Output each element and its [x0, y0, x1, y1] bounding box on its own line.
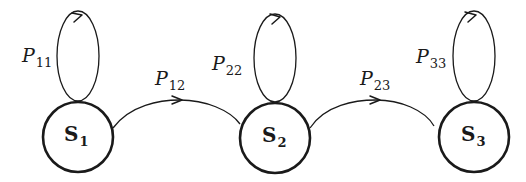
- label-p22: P22: [212, 52, 242, 74]
- diagram-canvas: [0, 0, 526, 182]
- state-label-s2: S2: [262, 123, 287, 147]
- state-label-s3: S3: [461, 122, 486, 146]
- edge-s2-s3: [310, 100, 434, 128]
- label-p12: P12: [155, 67, 185, 89]
- edge-s1-s2: [113, 100, 240, 128]
- label-p33: P33: [416, 45, 446, 67]
- label-p11: P11: [22, 44, 52, 66]
- self-loop-s2: [254, 14, 296, 102]
- label-p23: P23: [360, 67, 390, 89]
- arrow-head-s2-loop: [270, 14, 280, 24]
- self-loop-s3: [453, 11, 495, 101]
- self-loop-s1: [57, 11, 99, 101]
- state-label-s1: S1: [64, 122, 89, 146]
- arrow-head-s1-loop: [72, 13, 82, 22]
